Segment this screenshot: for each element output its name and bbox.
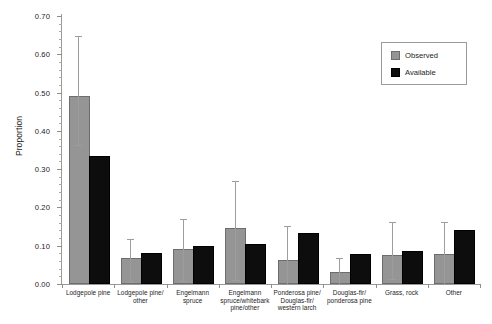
error-cap-top [127,239,134,240]
y-tick-minor [59,70,62,71]
y-tick-minor [59,116,62,117]
error-bar-observed [392,222,393,279]
bar-available [402,251,423,284]
bar-group [330,16,369,284]
y-tick-0.30: 0.30 [57,169,62,170]
bar-available [454,230,475,284]
y-tick-label: 0.10 [35,241,50,250]
bar-observed [69,96,90,284]
chart-legend: Observed Available [381,42,467,85]
error-cap-top [284,226,291,227]
legend-swatch-observed-icon [391,51,400,60]
x-tick [114,284,115,288]
y-tick-minor [59,123,62,124]
error-cap-bottom [75,145,82,146]
y-tick-minor [59,139,62,140]
bar-group [173,16,212,284]
error-cap-top [180,219,187,220]
y-tick-0.70: 0.70 [57,16,62,17]
y-tick-minor [59,230,62,231]
x-axis-label: Engelmann spruce/whitebark pine/other [219,289,271,312]
x-axis-label: Lodgepole pine/ other [114,289,166,304]
y-tick-label: 0.50 [35,88,50,97]
x-axis-label: Grass, rock [376,289,428,297]
y-tick-minor [59,253,62,254]
bar-available [350,254,371,284]
legend-label-available: Available [405,68,436,77]
bar-group [69,16,108,284]
y-axis-title: Proportion [14,86,24,186]
y-tick-minor [59,238,62,239]
x-axis-label: Douglas-fir/ ponderosa pine [323,289,375,304]
error-bar-observed [130,239,131,282]
bar-chart-figure: Proportion 0.000.100.200.300.400.500.600… [0,0,492,324]
y-tick-minor [59,100,62,101]
y-tick-minor [59,161,62,162]
x-axis-label: Lodgepole pine [62,289,114,297]
bar-available [245,244,266,284]
bar-observed [278,260,299,284]
y-tick-minor [59,223,62,224]
error-cap-top [336,258,343,259]
y-tick-minor [59,215,62,216]
y-tick-minor [59,269,62,270]
x-axis-label: Engelmann spruce [167,289,219,304]
y-tick-minor [59,276,62,277]
bar-group [121,16,160,284]
y-tick-minor [59,200,62,201]
error-cap-top [75,36,82,37]
y-tick-0.60: 0.60 [57,54,62,55]
bar-available [89,156,110,284]
y-tick-minor [59,39,62,40]
bar-observed [225,228,246,284]
error-bar-observed [183,219,184,281]
y-tick-minor [59,154,62,155]
legend-label-observed: Observed [405,51,438,60]
bar-observed [121,258,142,284]
error-cap-bottom [180,281,187,282]
y-tick-label: 0.70 [35,12,50,21]
bar-available [298,233,319,284]
y-tick-0.20: 0.20 [57,207,62,208]
error-cap-top [232,181,239,182]
y-tick-minor [59,177,62,178]
y-tick-0.40: 0.40 [57,131,62,132]
bar-group [225,16,264,284]
error-bar-observed [339,258,340,284]
bar-group [278,16,317,284]
y-tick-minor [59,108,62,109]
error-cap-bottom [232,280,239,281]
bar-observed [434,254,455,284]
y-tick-0.10: 0.10 [57,246,62,247]
y-tick-label: 0.20 [35,203,50,212]
y-tick-label: 0.30 [35,165,50,174]
bar-available [193,246,214,284]
y-tick-0.50: 0.50 [57,93,62,94]
error-cap-bottom [127,282,134,283]
error-bar-observed [287,226,288,284]
y-tick-label: 0.40 [35,126,50,135]
y-tick-minor [59,192,62,193]
y-tick-minor [59,47,62,48]
legend-swatch-available-icon [391,68,400,77]
y-tick-minor [59,31,62,32]
y-tick-minor [59,62,62,63]
x-tick [62,284,63,288]
y-tick-minor [59,184,62,185]
legend-item-observed: Observed [391,51,438,60]
x-tick [219,284,220,288]
x-axis-label: Other [428,289,480,297]
x-tick [480,284,481,288]
bar-observed [173,249,194,284]
y-tick-minor [59,24,62,25]
x-tick [323,284,324,288]
x-tick [271,284,272,288]
y-tick-label: 0.60 [35,50,50,59]
error-cap-top [441,222,448,223]
y-tick-minor [59,77,62,78]
error-cap-bottom [389,279,396,280]
y-tick-minor [59,85,62,86]
y-tick-label: 0.00 [35,280,50,289]
error-bar-observed [444,222,445,284]
bar-observed [330,272,351,284]
